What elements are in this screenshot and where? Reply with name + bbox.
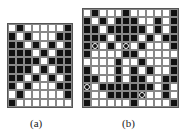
black-cell: [170, 25, 178, 33]
black-cell: [115, 83, 123, 91]
white-cell: [107, 34, 115, 42]
black-cell: [170, 34, 178, 42]
marked-cell: [138, 91, 146, 99]
black-cell: [138, 83, 146, 91]
white-cell: [162, 42, 170, 50]
white-cell: [146, 50, 154, 58]
white-cell: [107, 75, 115, 83]
black-cell: [107, 91, 115, 99]
white-cell: [24, 41, 32, 49]
black-cell: [170, 75, 178, 83]
white-cell: [24, 24, 32, 32]
black-cell: [32, 57, 40, 65]
black-cell: [91, 34, 99, 42]
white-cell: [8, 24, 16, 32]
caption-a: (a): [30, 117, 42, 129]
white-cell: [48, 32, 56, 40]
white-cell: [48, 90, 56, 98]
black-cell: [8, 65, 16, 73]
white-cell: [16, 32, 24, 40]
white-cell: [56, 90, 64, 98]
white-cell: [99, 75, 107, 83]
black-cell: [64, 49, 72, 57]
black-cell: [130, 83, 138, 91]
black-cell: [146, 66, 154, 74]
caption-b: (b): [122, 117, 135, 129]
black-cell: [24, 57, 32, 65]
black-cell: [170, 99, 178, 107]
black-cell: [56, 57, 64, 65]
white-cell: [138, 17, 146, 25]
black-cell: [122, 17, 130, 25]
white-cell: [162, 9, 170, 17]
white-cell: [91, 66, 99, 74]
black-cell: [107, 83, 115, 91]
black-cell: [154, 25, 162, 33]
black-cell: [115, 25, 123, 33]
white-cell: [107, 50, 115, 58]
white-cell: [56, 41, 64, 49]
white-cell: [154, 34, 162, 42]
white-cell: [99, 91, 107, 99]
black-cell: [24, 82, 32, 90]
white-cell: [138, 99, 146, 107]
white-cell: [40, 90, 48, 98]
black-cell: [99, 17, 107, 25]
white-cell: [154, 50, 162, 58]
black-cell: [64, 74, 72, 82]
white-cell: [146, 25, 154, 33]
black-cell: [107, 42, 115, 50]
black-cell: [115, 75, 123, 83]
white-cell: [154, 75, 162, 83]
black-cell: [56, 49, 64, 57]
black-cell: [115, 58, 123, 66]
black-cell: [170, 17, 178, 25]
white-cell: [146, 9, 154, 17]
black-cell: [48, 41, 56, 49]
black-cell: [170, 9, 178, 17]
white-cell: [154, 99, 162, 107]
white-cell: [48, 49, 56, 57]
black-cell: [16, 65, 24, 73]
white-cell: [40, 82, 48, 90]
black-cell: [130, 25, 138, 33]
black-cell: [122, 91, 130, 99]
white-cell: [130, 42, 138, 50]
white-cell: [154, 9, 162, 17]
black-cell: [83, 91, 91, 99]
white-cell: [24, 99, 32, 107]
black-cell: [122, 25, 130, 33]
black-cell: [8, 82, 16, 90]
white-cell: [99, 58, 107, 66]
white-cell: [138, 9, 146, 17]
white-cell: [16, 99, 24, 107]
white-cell: [154, 58, 162, 66]
black-cell: [64, 90, 72, 98]
black-cell: [162, 75, 170, 83]
white-cell: [154, 91, 162, 99]
white-cell: [162, 17, 170, 25]
black-cell: [32, 74, 40, 82]
white-cell: [146, 42, 154, 50]
white-cell: [8, 90, 16, 98]
black-cell: [8, 99, 16, 107]
black-cell: [99, 83, 107, 91]
white-cell: [138, 34, 146, 42]
black-cell: [170, 58, 178, 66]
black-cell: [64, 65, 72, 73]
black-cell: [162, 34, 170, 42]
black-cell: [130, 66, 138, 74]
white-cell: [107, 9, 115, 17]
black-cell: [91, 9, 99, 17]
white-cell: [83, 9, 91, 17]
white-cell: [115, 50, 123, 58]
white-cell: [16, 82, 24, 90]
black-cell: [83, 42, 91, 50]
black-cell: [16, 74, 24, 82]
black-cell: [16, 90, 24, 98]
black-cell: [99, 34, 107, 42]
black-cell: [16, 49, 24, 57]
black-cell: [170, 66, 178, 74]
black-cell: [122, 34, 130, 42]
black-cell: [146, 34, 154, 42]
